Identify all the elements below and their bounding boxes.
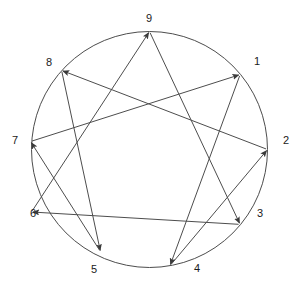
node-label-4: 4	[194, 262, 200, 274]
node-label-9: 9	[146, 12, 152, 24]
enneagram-canvas: 123456789	[0, 0, 302, 287]
triangle-edge-9-to-3	[150, 33, 239, 223]
hexad-group	[31, 71, 266, 265]
triangle-edge-3-to-6	[33, 212, 239, 224]
node-label-7: 7	[12, 134, 18, 146]
node-labels-group: 123456789	[12, 12, 289, 275]
inner-triangle-group	[32, 33, 239, 225]
hexad-edge-8-to-5	[62, 72, 100, 250]
node-label-5: 5	[91, 263, 97, 275]
node-label-2: 2	[283, 134, 289, 146]
node-label-1: 1	[254, 55, 260, 67]
enneagram-diagram: 123456789	[0, 0, 302, 287]
node-label-3: 3	[257, 207, 263, 219]
node-label-8: 8	[46, 56, 52, 68]
outer-circle	[32, 32, 268, 268]
hexad-edge-7-to-1	[32, 75, 239, 141]
node-label-6: 6	[30, 207, 36, 219]
hexad-edge-2-to-8	[63, 71, 266, 149]
